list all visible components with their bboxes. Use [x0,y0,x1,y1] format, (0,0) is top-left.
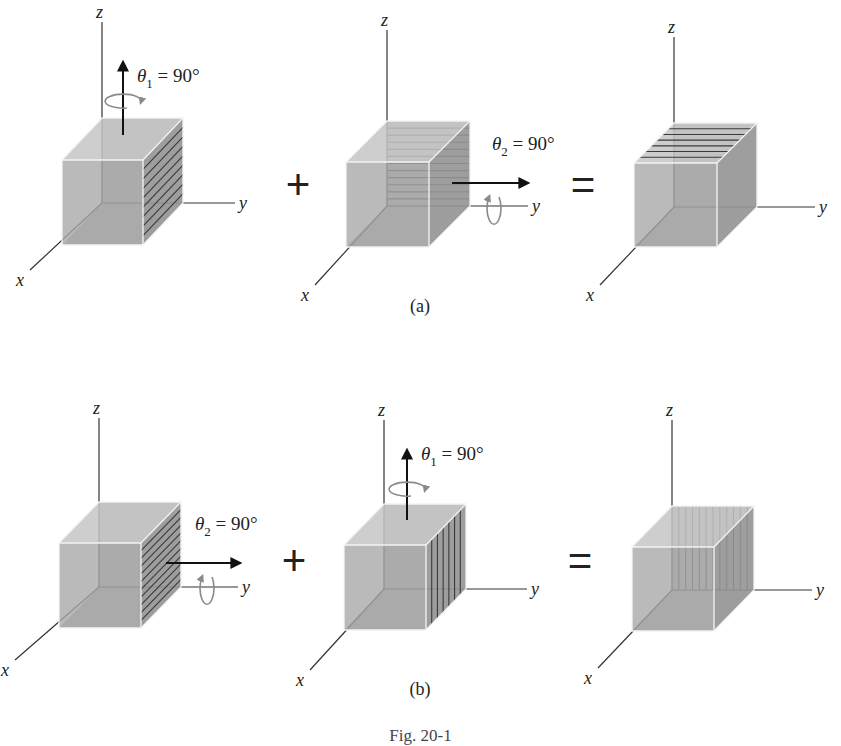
curved-rotation-arrow-icon [487,197,501,224]
x-axis-label: x [583,668,592,688]
cube-a3: zyx [585,17,827,305]
cube-a2: zyxθ2 = 90° [300,10,555,305]
equals-operator: = [568,537,593,584]
cube-b1: zyxθ2 = 90° [0,398,258,680]
plus-operator: + [282,537,307,584]
x-axis-label: x [15,270,24,290]
cube-a1: zyxθ1 = 90° [15,2,247,290]
y-axis-label: y [237,193,247,213]
z-axis-label: z [665,400,673,420]
x-axis-label: x [585,285,594,305]
row-label: (a) [410,296,430,317]
equals-operator: = [571,161,596,208]
z-axis-label: z [92,398,100,418]
y-axis-label: y [814,580,824,600]
front-face [344,545,426,630]
plus-operator: + [286,161,311,208]
cube-b2: zyxθ1 = 90° [295,400,539,690]
front-face [62,160,143,245]
z-axis-label: z [380,10,388,30]
front-face [59,543,141,628]
y-axis-label: y [240,577,250,597]
rotation-angle-label: θ2 = 90° [195,513,258,539]
front-face [632,547,714,631]
y-axis-label: y [817,197,827,217]
x-axis-label: x [300,285,309,305]
curved-rotation-arrow-icon [200,577,214,604]
x-axis-label: x [295,670,304,690]
figure-caption: Fig. 20-1 [0,726,841,746]
front-face [346,162,429,247]
z-axis-label: z [377,400,385,420]
row-label: (b) [410,679,431,700]
z-axis-label: z [667,17,675,37]
x-axis-label: x [0,660,9,680]
rotation-angle-label: θ1 = 90° [137,65,200,91]
front-face [634,163,717,247]
cube-b3: zyx [583,400,824,688]
rotation-angle-label: θ2 = 90° [492,133,555,159]
z-axis-label: z [95,2,103,22]
y-axis-label: y [529,579,539,599]
row-b: (b)+=zyxθ2 = 90°zyxθ1 = 90°zyx [0,398,824,700]
rotation-angle-label: θ1 = 90° [421,443,484,469]
y-axis-label: y [530,196,540,216]
row-a: (a)+=zyxθ1 = 90°zyxθ2 = 90°zyx [15,2,827,317]
